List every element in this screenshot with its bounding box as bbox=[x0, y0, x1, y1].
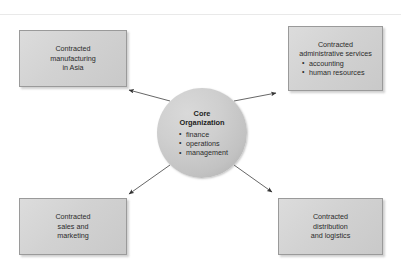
node-line: manufacturing bbox=[24, 54, 122, 63]
core-organization-circle[interactable]: Core Organization finance operations man… bbox=[157, 88, 247, 178]
arrow-core-to-manufacturing bbox=[129, 90, 170, 101]
node-box-distribution-and-logistics-content: Contracted distribution and logistics bbox=[279, 212, 382, 240]
node-box-sales-and-marketing-content: Contracted sales and marketing bbox=[20, 212, 126, 240]
node-line: Contracted bbox=[24, 212, 122, 221]
node-box-manufacturing-content: Contracted manufacturing in Asia bbox=[20, 44, 126, 72]
arrow-core-to-distribution bbox=[234, 165, 272, 192]
core-bullet-list: finance operations management bbox=[178, 130, 228, 158]
core-title-line: Organization bbox=[179, 118, 224, 127]
core-title-line: Core bbox=[179, 109, 224, 118]
node-line: marketing bbox=[24, 231, 122, 240]
node-line: Contracted bbox=[283, 212, 378, 221]
node-line: in Asia bbox=[24, 63, 122, 72]
node-bullet-list: accounting human resources bbox=[301, 59, 378, 78]
node-line: administrative services bbox=[293, 49, 378, 58]
arrow-core-to-sales bbox=[129, 165, 170, 194]
node-line: Contracted bbox=[24, 44, 122, 53]
node-line: and logistics bbox=[283, 231, 378, 240]
core-bullet-item: operations bbox=[178, 139, 228, 148]
node-box-administrative-services[interactable]: Contracted administrative services accou… bbox=[288, 26, 383, 91]
node-line: distribution bbox=[283, 222, 378, 231]
node-bullet-item: human resources bbox=[301, 68, 378, 77]
core-organization-title: Core Organization bbox=[179, 109, 224, 128]
node-line: sales and bbox=[24, 222, 122, 231]
node-line: Contracted bbox=[293, 40, 378, 49]
node-box-administrative-services-content: Contracted administrative services accou… bbox=[289, 40, 382, 78]
core-bullet-item: finance bbox=[178, 130, 228, 139]
node-box-manufacturing[interactable]: Contracted manufacturing in Asia bbox=[19, 30, 127, 87]
diagram-canvas: Contracted manufacturing in Asia Contrac… bbox=[0, 0, 401, 267]
node-bullet-item: accounting bbox=[301, 59, 378, 68]
arrow-core-to-admin bbox=[234, 93, 276, 101]
node-box-sales-and-marketing[interactable]: Contracted sales and marketing bbox=[19, 198, 127, 255]
core-bullet-item: management bbox=[178, 148, 228, 157]
node-box-distribution-and-logistics[interactable]: Contracted distribution and logistics bbox=[278, 198, 383, 255]
